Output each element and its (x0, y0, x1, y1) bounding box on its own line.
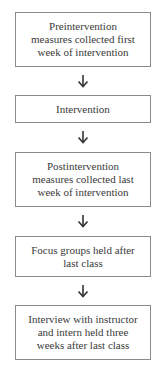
down-arrow-icon (77, 284, 89, 298)
step-intervention: Intervention (15, 95, 151, 123)
step-4-line-2: last class (31, 257, 135, 270)
step-4-line-1: Focus groups held after (31, 244, 135, 257)
step-1-line-1: Preintervention (31, 20, 135, 33)
step-5-line-3: weeks after last class (28, 339, 137, 352)
step-postintervention-measures: Postintervention measures collected last… (15, 152, 151, 207)
step-1-line-2: measures collected first (31, 33, 135, 46)
step-5-line-1: Interview with instructor (28, 313, 137, 326)
step-5-line-2: and intern held three (28, 326, 137, 339)
step-3-line-2: measures collected last (32, 173, 133, 186)
down-arrow-icon (77, 130, 89, 144)
step-1-line-3: week of intervention (31, 46, 135, 59)
step-2-line-1: Intervention (56, 103, 110, 116)
step-3-line-1: Postintervention (32, 160, 133, 173)
step-3-line-3: week of intervention (32, 186, 133, 199)
step-instructor-intern-interview: Interview with instructor and intern hel… (15, 305, 151, 360)
down-arrow-icon (77, 214, 89, 228)
step-preintervention-measures: Preintervention measures collected first… (15, 12, 151, 67)
down-arrow-icon (77, 74, 89, 88)
step-focus-groups: Focus groups held after last class (15, 236, 151, 277)
